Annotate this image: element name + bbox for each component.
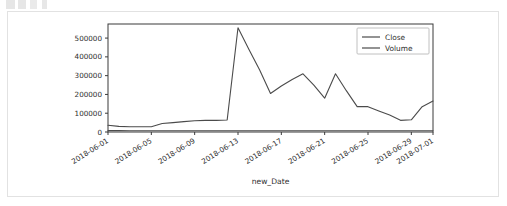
x-axis-title: new_Date bbox=[252, 177, 290, 186]
x-axis-tick-label: 2018-06-17 bbox=[243, 136, 283, 166]
top-cutoff-text-artifact bbox=[6, 0, 66, 9]
chart-card: 01000002000003000004000005000002018-06-0… bbox=[7, 11, 499, 197]
x-axis-tick-label: 2018-06-01 bbox=[70, 136, 110, 166]
x-axis-tick-label: 2018-06-05 bbox=[113, 136, 153, 166]
y-axis-tick-label: 500000 bbox=[75, 34, 103, 43]
legend-label-volume: Volume bbox=[385, 44, 413, 53]
line-chart: 01000002000003000004000005000002018-06-0… bbox=[8, 12, 500, 198]
screenshot-root: 01000002000003000004000005000002018-06-0… bbox=[0, 0, 507, 206]
x-axis-tick-label: 2018-06-09 bbox=[157, 136, 198, 166]
y-axis-tick-label: 200000 bbox=[75, 90, 103, 99]
x-axis-tick-label: 2018-06-25 bbox=[330, 136, 370, 166]
y-axis-tick-label: 100000 bbox=[75, 109, 103, 118]
x-axis-tick-label: 2018-06-13 bbox=[200, 136, 240, 166]
chart-plot-area: 01000002000003000004000005000002018-06-0… bbox=[8, 12, 500, 198]
y-axis-tick-label: 0 bbox=[97, 128, 102, 137]
y-axis-tick-label: 400000 bbox=[75, 52, 103, 61]
y-axis-tick-label: 300000 bbox=[75, 71, 103, 80]
legend-label-close: Close bbox=[385, 33, 406, 42]
x-axis-tick-label: 2018-06-21 bbox=[287, 136, 327, 166]
